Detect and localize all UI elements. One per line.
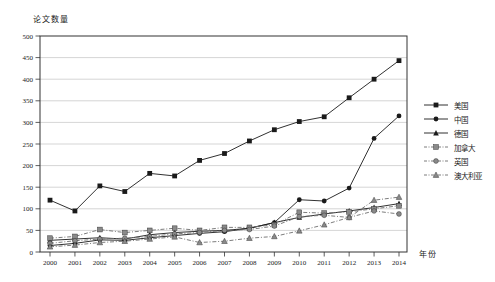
series-china-marker — [347, 186, 352, 191]
x-tick-label: 2000 — [43, 259, 58, 267]
series-usa-marker — [48, 198, 53, 203]
y-tick-label: 250 — [23, 141, 34, 149]
y-tick-label: 300 — [23, 119, 34, 127]
series-usa-marker — [122, 189, 127, 194]
x-tick-label: 2014 — [392, 259, 407, 267]
series-canada-marker — [97, 227, 102, 232]
legend-item-usa: 美国 — [423, 100, 482, 110]
legend-label-australia: 澳大利亚 — [454, 170, 482, 181]
x-tick-label: 2004 — [143, 259, 158, 267]
series-australia-marker — [272, 233, 278, 238]
x-tick-label: 2006 — [193, 259, 208, 267]
legend: 美国中国德国加拿大英国澳大利亚 — [423, 100, 482, 180]
legend-square-icon — [423, 100, 449, 110]
x-tick-label: 2008 — [242, 259, 257, 267]
series-usa-marker — [147, 171, 152, 176]
legend-item-canada: 加拿大 — [423, 142, 482, 152]
series-line-germany — [50, 204, 399, 241]
legend-label-canada: 加拿大 — [454, 142, 475, 153]
series-line-usa — [50, 61, 399, 211]
series-uk-marker — [372, 209, 377, 214]
series-usa-marker — [272, 127, 277, 132]
series-usa-marker — [97, 184, 102, 189]
series-usa-marker — [322, 114, 327, 119]
x-tick-label: 2007 — [218, 259, 233, 267]
series-canada-marker — [397, 203, 402, 208]
series-canada-marker — [48, 236, 53, 241]
series-uk-marker — [322, 213, 327, 218]
x-tick-label: 2010 — [292, 259, 307, 267]
legend-label-uk: 英国 — [454, 156, 468, 167]
y-tick-label: 400 — [23, 76, 34, 84]
legend-triangle-icon — [423, 170, 449, 180]
series-canada-marker — [147, 228, 152, 233]
series-australia-marker — [222, 238, 228, 243]
series-usa-marker — [222, 151, 227, 156]
series-australia-marker — [371, 197, 377, 202]
legend-marker — [434, 117, 439, 122]
legend-square-icon — [423, 142, 449, 152]
series-china-marker — [322, 199, 327, 204]
legend-circle-icon — [423, 114, 449, 124]
series-uk-marker — [247, 227, 252, 232]
series-usa-marker — [297, 119, 302, 124]
y-tick-label: 100 — [23, 205, 34, 213]
legend-label-usa: 美国 — [454, 100, 468, 111]
series-usa-marker — [397, 58, 402, 63]
series-china-marker — [397, 114, 402, 119]
chart-canvas: 0501001502002503003504004505002000200120… — [0, 0, 495, 282]
legend-marker — [434, 159, 439, 164]
legend-label-germany: 德国 — [454, 128, 468, 139]
legend-item-germany: 德国 — [423, 128, 482, 138]
y-tick-label: 450 — [23, 54, 34, 62]
legend-triangle-icon — [423, 128, 449, 138]
y-tick-label: 350 — [23, 97, 34, 105]
x-tick-label: 2009 — [267, 259, 282, 267]
x-axis-title: 年份 — [419, 248, 437, 259]
series-usa-marker — [172, 174, 177, 179]
series-canada-marker — [122, 230, 127, 235]
y-tick-label: 200 — [23, 162, 34, 170]
series-uk-marker — [197, 230, 202, 235]
series-uk-marker — [297, 214, 302, 219]
series-usa-marker — [372, 77, 377, 82]
x-tick-label: 2005 — [168, 259, 183, 267]
series-china-marker — [372, 136, 377, 141]
y-tick-label: 500 — [23, 33, 34, 41]
y-axis-title: 论文数量 — [33, 13, 69, 24]
line-chart: 0501001502002503003504004505002000200120… — [0, 0, 495, 282]
series-usa-marker — [197, 158, 202, 163]
legend-circle-icon — [423, 156, 449, 166]
legend-item-australia: 澳大利亚 — [423, 170, 482, 180]
legend-item-uk: 英国 — [423, 156, 482, 166]
y-tick-label: 0 — [30, 249, 34, 257]
y-tick-label: 150 — [23, 184, 34, 192]
series-canada-marker — [172, 226, 177, 231]
series-uk-marker — [272, 224, 277, 229]
legend-item-china: 中国 — [423, 114, 482, 124]
x-tick-label: 2001 — [68, 259, 83, 267]
series-australia-marker — [396, 194, 402, 199]
x-tick-label: 2003 — [118, 259, 133, 267]
y-tick-label: 50 — [26, 227, 34, 235]
legend-label-china: 中国 — [454, 114, 468, 125]
series-canada-marker — [347, 209, 352, 214]
series-usa-marker — [247, 139, 252, 144]
series-china-marker — [297, 197, 302, 202]
series-uk-marker — [222, 228, 227, 233]
legend-marker — [433, 172, 439, 177]
series-australia-marker — [247, 235, 253, 240]
x-tick-label: 2002 — [93, 259, 108, 267]
series-uk-marker — [397, 212, 402, 217]
legend-marker — [434, 103, 439, 108]
series-usa-marker — [347, 95, 352, 100]
x-tick-label: 2011 — [317, 259, 331, 267]
legend-marker — [434, 145, 439, 150]
series-usa-marker — [73, 209, 78, 214]
x-tick-label: 2012 — [342, 259, 357, 267]
x-tick-label: 2013 — [367, 259, 382, 267]
